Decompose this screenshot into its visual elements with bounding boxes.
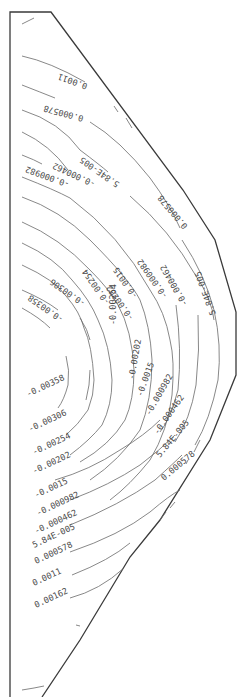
contour-line: [22, 18, 34, 24]
contour-line: [70, 455, 182, 525]
contour-line: [22, 686, 44, 690]
contour-label: 0.000578: [156, 193, 190, 231]
contour-line: [22, 155, 42, 164]
contour-label: -0.00306: [48, 277, 87, 309]
contour-line: [160, 502, 175, 520]
contour-line: [76, 625, 80, 626]
contour-label: -0.00306: [27, 407, 68, 433]
contour-label: -0.00358: [25, 372, 66, 398]
contour-label: 0.0011: [31, 566, 63, 588]
contour-label: 0.00162: [33, 586, 70, 610]
contour-line: [114, 106, 118, 112]
contour-line: [86, 370, 90, 400]
contour-label: 5.84E-005: [193, 270, 218, 317]
contour-label: -0.00254: [108, 284, 118, 325]
contour-plot: 0.0011 0.000578 5.84E-005 -0.000462 -0.0…: [0, 0, 249, 697]
contour-line: [22, 85, 55, 98]
contour-label: 0.000578: [42, 103, 84, 123]
contour-label: -0.00202: [126, 338, 143, 380]
contour-line: [55, 420, 160, 480]
contour-label: -0.00358: [26, 293, 65, 325]
domain-boundary: [10, 12, 236, 697]
contour-label: 0.0011: [56, 72, 88, 92]
contour-line: [70, 435, 175, 500]
